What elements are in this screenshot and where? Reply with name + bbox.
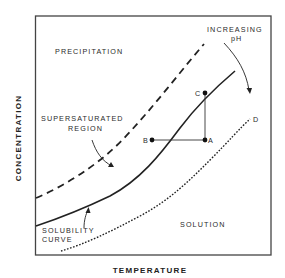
point-b-marker: [150, 138, 155, 143]
point-c-label: C: [195, 89, 201, 98]
supersaturated-label-line1: SUPERSATURATED: [41, 114, 124, 123]
y-axis-label: CONCENTRATION: [14, 95, 23, 182]
solubility-diagram: B A C D PRECIPITATION SUPERSATURATED REG…: [0, 0, 285, 278]
point-a-marker: [203, 138, 208, 143]
point-c-marker: [203, 91, 208, 96]
increasing-ph-arrow: [224, 43, 249, 90]
solubility-label-line2: CURVE: [42, 235, 73, 244]
supersaturated-label-line2: REGION: [68, 124, 103, 133]
point-b-label: B: [143, 136, 149, 145]
solubility-arrow-head-icon: [86, 207, 91, 213]
x-axis-label: TEMPERATURE: [113, 266, 188, 275]
increasing-ph-label-line2: pH: [231, 34, 242, 43]
point-d-label: D: [253, 115, 259, 124]
precipitation-label: PRECIPITATION: [55, 47, 123, 56]
solution-label: SOLUTION: [180, 220, 226, 229]
increasing-ph-arrow-head-icon: [247, 88, 253, 94]
point-a-label: A: [208, 136, 214, 145]
solubility-label-line1: SOLUBILITY: [42, 226, 95, 235]
increasing-ph-label-line1: INCREASING: [207, 25, 263, 34]
